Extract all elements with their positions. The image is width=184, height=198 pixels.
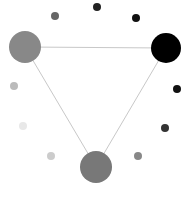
network-diagram xyxy=(0,0,184,198)
small-dot xyxy=(51,12,59,20)
edges-layer xyxy=(25,47,166,167)
edge-left-bottom xyxy=(25,47,96,167)
small-dot xyxy=(19,122,27,130)
diagram-canvas xyxy=(0,0,184,198)
node-right xyxy=(151,33,181,63)
small-dot xyxy=(134,152,142,160)
edge-right-bottom xyxy=(96,48,166,167)
small-dot xyxy=(10,82,18,90)
small-dot xyxy=(173,85,181,93)
small-dot xyxy=(47,152,55,160)
node-bottom xyxy=(80,151,112,183)
nodes-layer xyxy=(9,31,181,183)
edge-left-right xyxy=(25,47,166,48)
dots-layer xyxy=(10,3,181,160)
small-dot xyxy=(132,14,140,22)
node-left xyxy=(9,31,41,63)
small-dot xyxy=(93,3,101,11)
small-dot xyxy=(161,124,169,132)
